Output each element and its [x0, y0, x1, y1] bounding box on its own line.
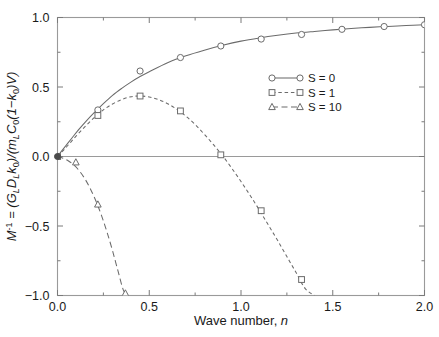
origin-marker [55, 154, 61, 160]
data-point-circle [137, 68, 143, 74]
data-point-triangle [73, 159, 80, 165]
legend-item[interactable]: S = 10 [269, 101, 342, 113]
x-axis-title: Wave number, n [194, 313, 288, 328]
ylabel-D: D [4, 179, 19, 188]
series-line [58, 25, 425, 157]
data-point-circle [339, 26, 345, 32]
data-point-square [299, 277, 305, 283]
ylabel-M-exponent: -1 [4, 222, 14, 230]
y-tick-label: 0.0 [32, 150, 49, 164]
legend-label: S = 1 [308, 87, 335, 99]
legend-item[interactable]: S = 0 [269, 72, 335, 84]
x-tick-label: 1.0 [232, 300, 249, 314]
legend: S = 0S = 1S = 10 [269, 72, 342, 113]
y-tick-label: 0.5 [32, 81, 49, 95]
x-tick-label: 1.5 [324, 300, 341, 314]
series-line [58, 157, 129, 296]
series-1 [54, 22, 427, 160]
x-axis-title-text: Wave number, [194, 313, 281, 328]
series-2 [55, 93, 315, 295]
data-point-circle [381, 23, 387, 29]
ylabel-one-minus: (1− [4, 100, 19, 120]
y-axis-title-group: M-1 = (GLDLk0)/(mLC0(1−k0)V) [4, 72, 21, 242]
data-point-square [95, 113, 101, 119]
legend-label: S = 0 [308, 72, 335, 84]
y-tick-label: −1.0 [25, 289, 50, 303]
data-point-circle [258, 36, 264, 42]
data-point-square [137, 93, 143, 99]
ylabel-G: G [4, 193, 19, 203]
x-tick-label: 0.0 [49, 300, 66, 314]
legend-marker-square [297, 90, 303, 96]
y-axis-title: M-1 = (GLDLk0)/(mLC0(1−k0)V) [4, 72, 21, 242]
ylabel-m: m [4, 139, 19, 150]
series-line [58, 96, 315, 295]
data-point-circle [218, 43, 224, 49]
series-3 [54, 153, 129, 296]
y-tick-label: −0.5 [25, 220, 50, 234]
data-point-square [218, 152, 224, 158]
legend-item[interactable]: S = 1 [269, 87, 335, 99]
legend-label: S = 10 [308, 101, 342, 113]
data-point-square [178, 108, 184, 114]
x-tick-label: 0.5 [141, 300, 158, 314]
data-point-circle [421, 22, 427, 28]
x-axis-title-variable: n [281, 313, 288, 328]
data-point-triangle [95, 201, 102, 207]
data-point-square [258, 208, 264, 214]
chart-figure: 0.00.51.01.52.0−1.0−0.50.00.51.0Wave num… [0, 0, 439, 337]
legend-marker-triangle [297, 103, 304, 109]
ylabel-M: M [4, 230, 19, 241]
ylabel-equals: = [4, 208, 19, 223]
legend-marker-square [269, 90, 275, 96]
data-point-circle [177, 54, 183, 60]
legend-marker-circle [269, 75, 275, 81]
data-point-circle [298, 31, 304, 37]
line-chart: 0.00.51.01.52.0−1.0−0.50.00.51.0Wave num… [0, 0, 439, 337]
x-tick-label: 2.0 [416, 300, 433, 314]
legend-marker-circle [297, 75, 303, 81]
y-tick-label: 1.0 [32, 11, 49, 25]
